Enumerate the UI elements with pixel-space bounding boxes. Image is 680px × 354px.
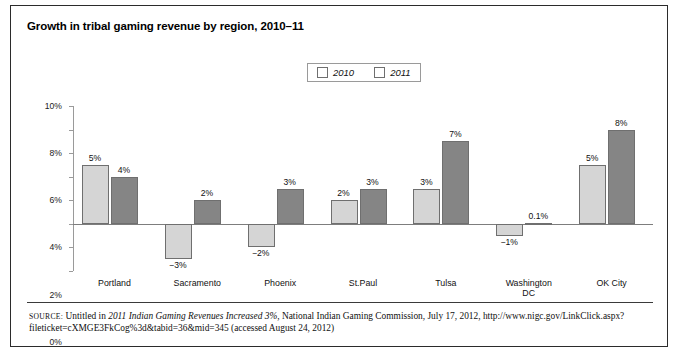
legend-item-2010: 2010 (317, 67, 354, 78)
bar-value-label: 2% (326, 188, 362, 198)
bar-group: −2%3%Phoenix (239, 106, 322, 271)
bar-group: 5%8%OK City (570, 106, 653, 271)
y-tick-label: 0% (50, 337, 62, 347)
bar-value-label: 8% (603, 118, 639, 128)
source-note: SOURCE: Untitled in 2011 Indian Gaming R… (29, 311, 653, 334)
y-tick-label: 4% (50, 242, 62, 252)
bar-2010-washington-dc[interactable] (496, 224, 523, 236)
y-tick-label: 8% (50, 148, 62, 158)
bar-2010-sacramento[interactable] (165, 224, 192, 259)
figure-panel: Growth in tribal gaming revenue by regio… (10, 5, 668, 347)
bar-2010-ok-city[interactable] (579, 165, 606, 224)
legend-swatch-2010 (317, 67, 328, 78)
y-tick-label: 2% (50, 290, 62, 300)
divider (27, 302, 653, 303)
chart-plot-area: 10%8%6%4%2%0%−2%−4% 5%4%Portland−3%2%Sac… (73, 106, 653, 271)
source-italic-title: 2011 Indian Gaming Revenues Increased 3% (108, 311, 277, 321)
bar-group: 2%3%St.Paul (322, 106, 405, 271)
bar-value-label: 4% (106, 165, 142, 175)
bar-value-label: 3% (272, 177, 308, 187)
bar-2010-tulsa[interactable] (413, 189, 440, 224)
bar-2011-sacramento[interactable] (194, 200, 221, 224)
bar-2011-phoenix[interactable] (277, 189, 304, 224)
bar-group: −3%2%Sacramento (156, 106, 239, 271)
bar-2010-portland[interactable] (82, 165, 109, 224)
legend-label-2011: 2011 (390, 67, 410, 78)
bar-2011-washington-dc[interactable] (525, 223, 552, 225)
page-title: Growth in tribal gaming revenue by regio… (27, 20, 304, 32)
bar-groups: 5%4%Portland−3%2%Sacramento−2%3%Phoenix2… (73, 106, 653, 271)
bar-value-label: 7% (437, 129, 473, 139)
bar-value-label: 5% (77, 153, 113, 163)
source-prefix: SOURCE: (29, 312, 63, 321)
bar-2010-st-paul[interactable] (331, 200, 358, 224)
y-tick-mark: −4% (69, 271, 73, 272)
x-axis-label-line: OK City (557, 278, 667, 288)
bar-group: −1%0.1%WashingtonDC (487, 106, 570, 271)
bar-value-label: 3% (355, 177, 391, 187)
bar-value-label: −2% (243, 248, 279, 258)
bar-value-label: 0.1% (520, 211, 556, 221)
bar-group: 5%4%Portland (73, 106, 156, 271)
chart-legend: 2010 2011 (307, 63, 421, 82)
bar-2011-st-paul[interactable] (360, 189, 387, 224)
bar-value-label: 5% (574, 153, 610, 163)
bar-group: 3%7%Tulsa (404, 106, 487, 271)
source-text-1: Untitled in (63, 311, 108, 321)
x-axis-label: OK City (557, 278, 667, 288)
bar-value-label: −1% (491, 237, 527, 247)
y-tick-label: 10% (45, 101, 62, 111)
bar-value-label: 2% (189, 188, 225, 198)
x-axis-label-line: DC (474, 288, 584, 298)
bar-2011-portland[interactable] (111, 177, 138, 224)
bar-value-label: −3% (160, 260, 196, 270)
bar-2011-ok-city[interactable] (608, 130, 635, 224)
bar-2010-phoenix[interactable] (248, 224, 275, 248)
bar-value-label: 3% (408, 177, 444, 187)
bar-2011-tulsa[interactable] (442, 141, 469, 224)
legend-label-2010: 2010 (333, 67, 354, 78)
legend-swatch-2011 (374, 67, 385, 78)
y-tick-label: 6% (50, 195, 62, 205)
legend-item-2011: 2011 (374, 67, 410, 78)
